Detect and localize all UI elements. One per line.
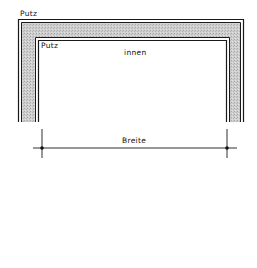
inner-plaster-label: Putz	[41, 41, 58, 50]
wall-section-drawing: Putz Putz innen Breite	[0, 0, 257, 268]
dimension-dot-left	[40, 146, 44, 150]
outer-plaster-label: Putz	[20, 9, 37, 18]
dimension-dot-right	[225, 146, 229, 150]
width-dimension-label: Breite	[122, 136, 146, 145]
interior-label: innen	[124, 48, 146, 57]
